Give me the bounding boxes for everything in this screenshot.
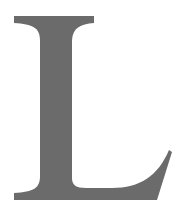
letter-l-shape — [14, 16, 172, 200]
letter-l-icon — [0, 0, 184, 217]
letter-l-graphic — [0, 0, 184, 217]
